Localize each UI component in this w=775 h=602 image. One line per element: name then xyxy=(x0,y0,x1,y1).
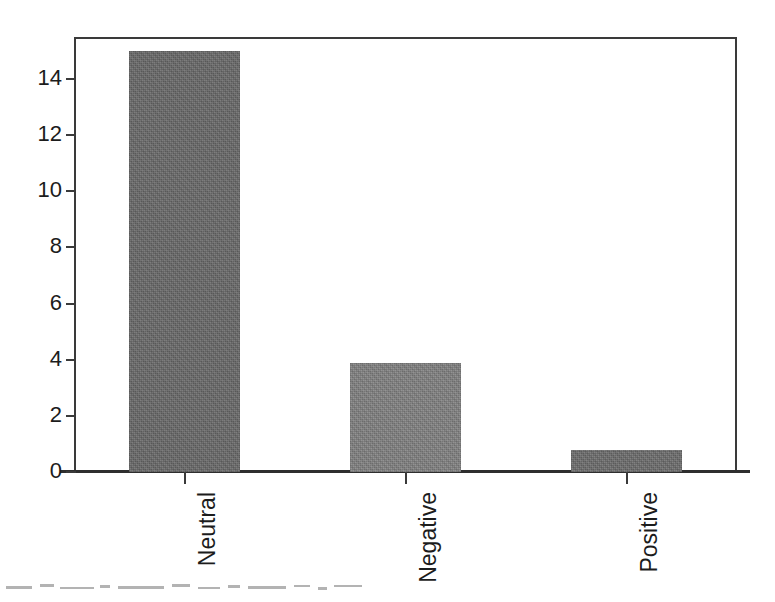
x-axis-tick-label-negative: Negative xyxy=(415,492,442,583)
y-axis-tick-label: 14 xyxy=(38,67,62,89)
bar-chart-figure: 02468101214 NeutralNegativePositive xyxy=(0,0,775,602)
x-axis-tick xyxy=(184,472,186,484)
x-axis-tick-label-positive: Positive xyxy=(636,492,663,573)
y-axis-tick-label: 10 xyxy=(38,179,62,201)
scan-artifact xyxy=(228,585,240,588)
scan-artifact xyxy=(294,585,310,587)
y-axis-tick-label: 8 xyxy=(50,235,62,257)
y-axis-tick-label: 0 xyxy=(50,460,62,482)
x-axis-tick-label-neutral: Neutral xyxy=(194,492,221,566)
bar-neutral xyxy=(129,51,240,472)
bar-negative xyxy=(350,363,461,472)
scan-artifact xyxy=(248,586,286,589)
plot-area xyxy=(74,37,737,472)
scan-artifact-marks xyxy=(0,578,775,602)
scan-artifact xyxy=(198,587,220,589)
scan-artifact xyxy=(318,587,327,590)
scan-artifact xyxy=(334,585,362,587)
scan-artifact xyxy=(40,584,54,587)
scan-artifact xyxy=(6,586,32,589)
y-axis-tick-label: 2 xyxy=(50,404,62,426)
x-axis-tick xyxy=(405,472,407,484)
bar-positive xyxy=(571,450,682,472)
bar-fill xyxy=(350,363,461,472)
scan-artifact xyxy=(172,584,190,587)
y-axis-tick-label: 4 xyxy=(50,348,62,370)
bar-fill xyxy=(129,51,240,472)
x-axis-tick xyxy=(626,472,628,484)
bar-fill xyxy=(571,450,682,472)
scan-artifact xyxy=(118,586,164,589)
y-axis-tick-label: 12 xyxy=(38,123,62,145)
scan-artifact xyxy=(60,587,94,589)
y-axis-tick-label: 6 xyxy=(50,292,62,314)
scan-artifact xyxy=(100,585,110,588)
